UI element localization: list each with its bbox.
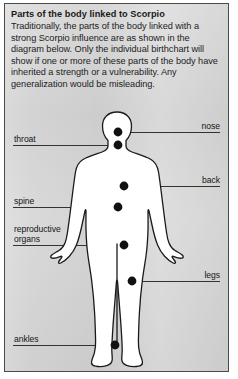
marker-spine [114, 203, 123, 212]
label-legs: legs [165, 271, 220, 281]
label-throat: throat [14, 135, 84, 145]
marker-reproductive-organs [120, 241, 129, 250]
label-reproductive-organs: reproductive organs [14, 225, 94, 244]
marker-back [120, 182, 129, 191]
label-nose: nose [165, 122, 220, 132]
label-spine: spine [14, 197, 84, 207]
marker-nose [114, 128, 123, 137]
marker-legs [128, 277, 137, 286]
body-diagram-svg [5, 4, 228, 371]
label-ankles: ankles [14, 335, 84, 345]
marker-throat [114, 141, 123, 150]
marker-ankles [111, 341, 120, 350]
scorpio-body-diagram-page: Parts of the body linked to Scorpio Trad… [0, 0, 238, 379]
label-back: back [165, 176, 220, 186]
content-panel: Parts of the body linked to Scorpio Trad… [4, 3, 229, 372]
